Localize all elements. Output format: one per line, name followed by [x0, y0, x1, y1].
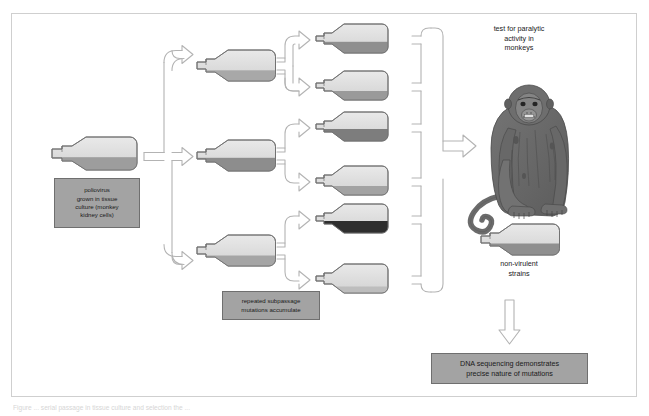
- test-line-3: monkeys: [467, 43, 571, 53]
- nonvirulent-line-2: strains: [470, 269, 568, 279]
- dna-line-2: precise nature of mutations: [466, 369, 553, 379]
- poliovirus-line-4: kidney cells): [80, 211, 114, 219]
- figure-caption-cropped: Figure ... serial passage in tissue cult…: [13, 404, 637, 414]
- poliovirus-source-box: poliovirus grown in tissue culture (monk…: [54, 178, 140, 228]
- poliovirus-line-1: poliovirus: [84, 186, 110, 194]
- subpassage-box: repeated subpassage mutations accumulate: [222, 291, 320, 320]
- subpassage-line-1: repeated subpassage: [242, 297, 301, 305]
- dna-sequencing-box: DNA sequencing demonstrates precise natu…: [431, 353, 588, 384]
- nonvirulent-line-1: non-virulent: [470, 259, 568, 269]
- figure-canvas: poliovirus grown in tissue culture (monk…: [0, 0, 649, 416]
- subpassage-line-2: mutations accumulate: [241, 306, 300, 314]
- poliovirus-line-3: culture (monkey: [75, 203, 118, 211]
- non-virulent-strains-label: non-virulent strains: [470, 259, 568, 278]
- test-line-1: test for paralytic: [467, 24, 571, 34]
- test-paralytic-activity-label: test for paralytic activity in monkeys: [467, 24, 571, 53]
- test-line-2: activity in: [467, 34, 571, 44]
- dna-line-1: DNA sequencing demonstrates: [460, 359, 559, 369]
- poliovirus-line-2: grown in tissue: [77, 195, 118, 203]
